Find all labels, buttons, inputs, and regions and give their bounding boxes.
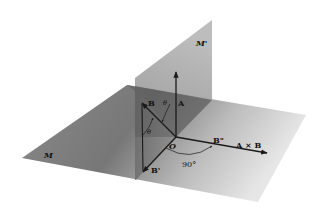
label-theta-upper: θ: [163, 99, 167, 107]
label-theta-lower: θ: [147, 128, 151, 136]
label-B-double-prime: B": [213, 135, 224, 145]
label-90-degrees: 90°: [182, 160, 196, 169]
label-M: M: [43, 150, 54, 160]
label-O: O: [169, 141, 176, 151]
diagram-canvas: M' M A B B' B" A × B O θ θ 90°: [0, 0, 327, 208]
vector-cross-product-diagram: M' M A B B' B" A × B O θ θ 90°: [0, 0, 327, 208]
label-A-cross-B: A × B: [235, 140, 261, 150]
label-A: A: [177, 98, 185, 108]
label-B-prime: B': [151, 165, 160, 175]
label-B: B: [148, 98, 155, 108]
label-M-prime: M': [195, 38, 207, 48]
